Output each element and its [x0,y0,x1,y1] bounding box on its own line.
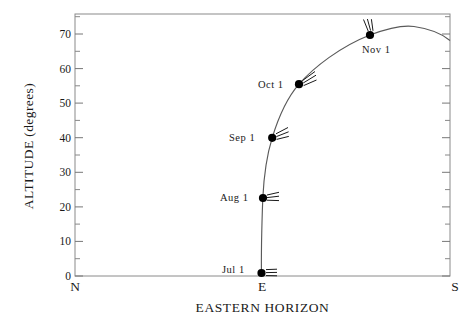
marker-dot-nov [366,31,374,39]
data-point-jul[interactable] [257,269,277,277]
point-label-jul: Jul 1 [222,265,245,276]
point-label-aug: Aug 1 [220,193,248,204]
sun-rays-nov [364,19,374,31]
data-point-nov[interactable] [364,19,375,39]
sun-rays-sep [276,128,289,140]
data-point-aug[interactable] [259,192,279,202]
compass-label-east: E [247,279,277,295]
y-tick-label-40: 40 [45,133,71,145]
y-tick-label-10: 10 [45,236,71,248]
y-tick-label-60: 60 [45,64,71,76]
marker-dot-aug [259,194,267,202]
x-axis-title: EASTERN HORIZON [75,300,450,316]
compass-label-north: N [60,279,90,295]
y-tick-label-70: 70 [45,29,71,41]
point-label-oct: Oct 1 [258,80,284,91]
sun-rays-aug [267,192,279,200]
sunrise-altitude-chart: 70 60 50 40 30 20 10 0 ALTITUDE (degrees… [0,0,468,323]
compass-label-south: S [440,279,468,295]
marker-dot-oct [295,80,303,88]
y-tick-label-30: 30 [45,167,71,179]
y-axis-title: ALTITUDE (degrees) [21,31,37,261]
point-label-sep: Sep 1 [229,133,255,144]
marker-dot-jul [257,269,265,277]
point-label-nov: Nov 1 [362,45,390,56]
plot-frame [75,14,450,276]
data-point-oct[interactable] [295,72,317,89]
data-point-sep[interactable] [268,128,289,142]
sun-rays-jul [266,269,277,276]
y-tick-label-20: 20 [45,202,71,214]
sunrise-track-curve [261,26,450,276]
y-tick-label-50: 50 [45,98,71,110]
marker-dot-sep [268,134,276,142]
